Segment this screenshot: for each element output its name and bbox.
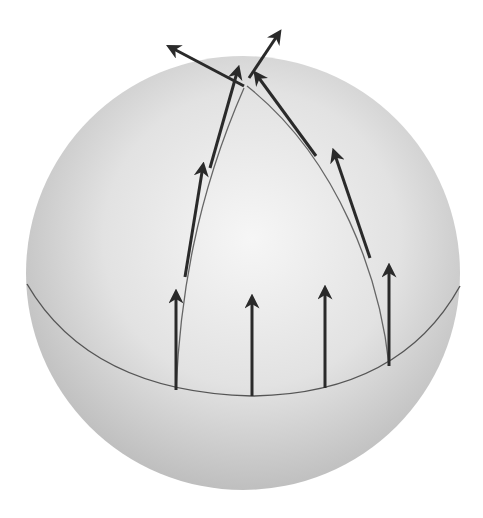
sphere <box>26 56 460 490</box>
parallel-transport-diagram <box>0 0 483 518</box>
